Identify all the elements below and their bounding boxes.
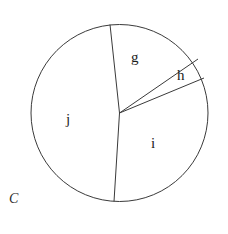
circle-sector-figure: g h i j C [0, 0, 228, 234]
sector-label-g: g [131, 50, 139, 65]
sector-label-h: h [177, 68, 185, 83]
circle-diagram [0, 0, 228, 234]
sector-label-j: j [66, 112, 70, 127]
figure-caption: C [9, 192, 18, 206]
sector-label-i: i [151, 136, 155, 151]
